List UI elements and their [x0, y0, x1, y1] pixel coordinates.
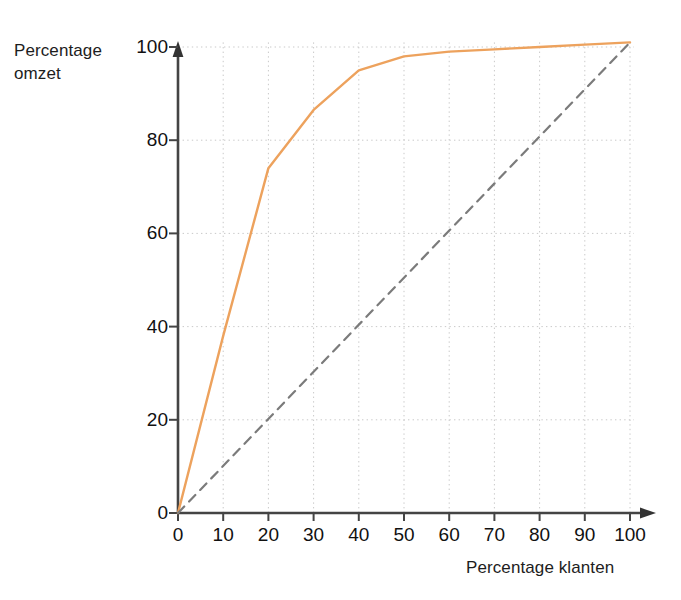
- y-tick-label: 60: [120, 222, 168, 244]
- x-tick-label: 0: [173, 524, 184, 546]
- y-axis-arrow-icon: [173, 41, 184, 57]
- x-tick-label: 100: [614, 524, 646, 546]
- data-series-group: [178, 42, 630, 513]
- x-axis-title: Percentage klanten: [466, 557, 676, 580]
- x-axis-arrow-icon: [640, 508, 656, 519]
- chart-canvas: [0, 0, 681, 600]
- x-tick-label: 90: [574, 524, 595, 546]
- x-tick-label: 80: [529, 524, 550, 546]
- y-axis-title: Percentage omzet: [14, 40, 132, 86]
- x-tick-label: 30: [303, 524, 324, 546]
- y-tick-label: 0: [120, 502, 168, 524]
- x-tick-label: 70: [484, 524, 505, 546]
- axes-group: [173, 41, 656, 518]
- x-tick-label: 50: [393, 524, 414, 546]
- y-tick-label: 100: [120, 36, 168, 58]
- y-tick-label: 20: [120, 409, 168, 431]
- x-tick-label: 40: [348, 524, 369, 546]
- x-tick-label: 20: [258, 524, 279, 546]
- lorenz-curve-chart: Percentage omzet Percentage klanten 0204…: [0, 0, 681, 600]
- y-tick-label: 40: [120, 316, 168, 338]
- x-tick-label: 10: [213, 524, 234, 546]
- x-tick-label: 60: [439, 524, 460, 546]
- reference-diagonal-line: [178, 42, 630, 513]
- y-tick-label: 80: [120, 129, 168, 151]
